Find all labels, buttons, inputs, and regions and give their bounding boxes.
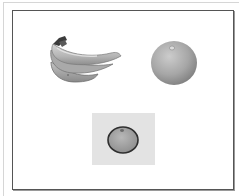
bananas-icon bbox=[45, 36, 125, 86]
bananas-image: Bunch of bananas bbox=[45, 36, 125, 86]
small-orange-icon bbox=[107, 126, 139, 154]
orange-tile: Orange on gray tile bbox=[92, 113, 155, 165]
orange-icon bbox=[150, 40, 198, 86]
orange-image: Orange bbox=[150, 40, 198, 86]
